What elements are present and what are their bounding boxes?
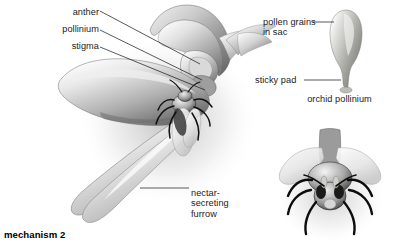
label-stigma: stigma: [72, 41, 99, 51]
caption-mechanism: mechanism 2: [4, 230, 65, 240]
label-sticky-pad: sticky pad: [255, 75, 296, 85]
bee-front-view-illustration: [274, 129, 386, 241]
bee-face-plate: [324, 199, 336, 209]
orchid-flower-illustration: [58, 5, 276, 223]
bee-head: [178, 91, 192, 102]
label-pollinium: pollinium: [62, 24, 99, 34]
sticky-pad-shape: [340, 87, 352, 93]
label-nectar-secreting-furrow: nectar- secreting furrow: [191, 188, 229, 219]
figure-orchid-pollination: anther pollinium stigma nectar- secretin…: [0, 0, 393, 246]
label-pollen-grains-in-sac: pollen grains in sac: [263, 17, 316, 38]
label-anther: anther: [73, 7, 99, 17]
caption-orchid-pollinium: orchid pollinium: [286, 94, 393, 104]
bee-abdomen-front: [319, 129, 340, 168]
